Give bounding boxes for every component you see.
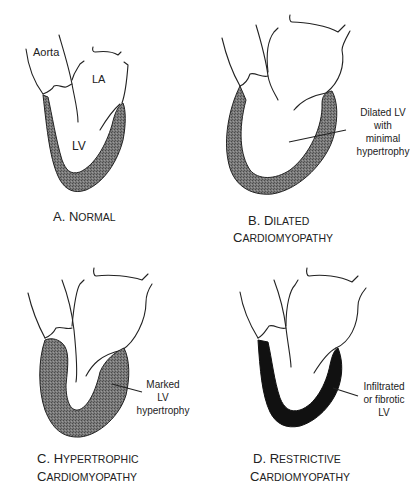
svg-text:minimal: minimal <box>366 133 400 144</box>
la-top <box>93 47 121 55</box>
panel-b-dilated: Dilated LV with minimal hypertrophy B. D… <box>222 15 409 245</box>
label-aorta: Aorta <box>33 46 60 58</box>
caption-b-line2: CARDIOMYOPATHY <box>233 230 333 245</box>
panel-c-hypertrophic: Marked LV hypertrophy C. HYPERTROPHIC CA… <box>28 268 189 484</box>
svg-text:LV: LV <box>157 392 169 403</box>
panel-a-normal: Aorta LA LV A. NORMAL <box>26 35 128 224</box>
la-septum <box>72 280 84 326</box>
annotation-restrictive: Infiltrated or fibrotic LV <box>363 381 404 418</box>
lv-wall-dilated <box>227 86 337 194</box>
svg-text:Dilated LV: Dilated LV <box>360 107 406 118</box>
svg-text:LV: LV <box>378 407 390 418</box>
aortic-valve <box>240 74 268 86</box>
la-right <box>122 284 152 350</box>
caption-c-line1: C. HYPERTROPHIC <box>37 451 139 466</box>
la-top <box>94 268 148 280</box>
aorta-right-wall <box>59 35 78 122</box>
svg-text:hypertrophy: hypertrophy <box>357 146 410 157</box>
la-right <box>122 62 128 103</box>
aorta-left-wall <box>222 38 240 86</box>
caption-a: A. NORMAL <box>53 209 116 224</box>
la-top <box>307 268 358 282</box>
annotation-hypertrophic: Marked LV hypertrophy <box>137 379 190 416</box>
panel-d-restrictive: Infiltrated or fibrotic LV D. RESTRICTIV… <box>240 268 405 484</box>
aorta-left-wall <box>28 293 45 338</box>
la-top <box>290 15 345 32</box>
label-lv: LV <box>72 139 86 153</box>
aortic-valve <box>258 326 286 338</box>
svg-text:Marked: Marked <box>146 379 179 390</box>
svg-text:Infiltrated: Infiltrated <box>363 381 404 392</box>
svg-text:or fibrotic: or fibrotic <box>363 394 404 405</box>
caption-d-line1: D. RESTRICTIVE <box>253 451 341 466</box>
cardiomyopathy-figure: Aorta LA LV A. NORMAL Dilated LV with mi… <box>0 0 417 494</box>
aortic-valve <box>45 327 72 338</box>
caption-d-line2: CARDIOMYOPATHY <box>250 469 350 484</box>
la-septum <box>72 61 84 80</box>
caption-b-line1: B. DILATED <box>248 213 310 228</box>
svg-text:hypertrophy: hypertrophy <box>137 405 190 416</box>
aorta-left-wall <box>240 292 258 338</box>
mitral-leaflet <box>294 93 326 110</box>
aorta-right-wall <box>274 280 291 367</box>
svg-text:with: with <box>373 120 392 131</box>
annotation-dilated: Dilated LV with minimal hypertrophy <box>357 107 410 157</box>
la-septum <box>267 28 278 72</box>
la-right <box>326 31 350 93</box>
label-la: LA <box>92 73 106 85</box>
caption-c-line2: CARDIOMYOPATHY <box>37 469 137 484</box>
la-right <box>336 288 366 348</box>
aortic-valve <box>43 84 72 94</box>
la-septum <box>286 280 298 326</box>
lv-wall-hypertrophic <box>40 339 129 437</box>
